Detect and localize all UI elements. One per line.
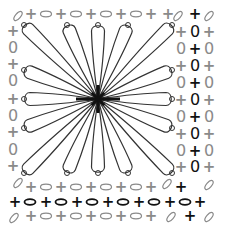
chain-stitch-icon: [180, 199, 191, 205]
single-crochet-icon: +: [203, 160, 216, 175]
single-crochet-icon: +: [175, 180, 188, 195]
single-crochet-icon: +: [189, 7, 202, 22]
single-crochet-icon: +: [164, 195, 177, 210]
slant-chain-stitch-icon: [12, 177, 23, 189]
slant-chain-stitch-icon: [12, 10, 23, 22]
chain-stitch-icon: [41, 184, 52, 190]
single-crochet-icon: +: [175, 25, 188, 40]
single-crochet-icon: +: [85, 209, 98, 224]
petal-loop: [98, 99, 174, 175]
petal-tip-circle-icon: [96, 171, 101, 176]
chain-stitch-icon: [131, 11, 142, 17]
double-crochet-icon: 0: [190, 58, 200, 74]
slant-chain-stitch-icon: [203, 10, 214, 22]
single-crochet-icon: +: [7, 57, 20, 72]
double-crochet-icon: 0: [190, 92, 200, 108]
chain-stitch-icon: [101, 184, 112, 190]
petal-loop: [98, 99, 132, 173]
double-crochet-icon: 0: [176, 109, 186, 125]
single-crochet-icon: +: [203, 59, 216, 74]
chain-stitch-icon: [41, 11, 52, 17]
single-crochet-icon: +: [175, 127, 188, 142]
single-crochet-icon: +: [102, 195, 115, 210]
chain-stitch-icon: [25, 199, 36, 205]
single-crochet-icon: +: [184, 209, 197, 224]
chain-stitch-icon: [71, 213, 82, 219]
single-crochet-icon: +: [25, 7, 38, 22]
single-crochet-icon: +: [7, 159, 20, 174]
single-crochet-icon: +: [55, 7, 68, 22]
single-crochet-icon: +: [145, 7, 158, 22]
single-crochet-icon: +: [85, 7, 98, 22]
single-crochet-icon: +: [189, 42, 202, 57]
chain-stitch-icon: [101, 213, 112, 219]
single-crochet-icon: +: [145, 209, 158, 224]
single-crochet-icon: +: [115, 180, 128, 195]
single-crochet-icon: +: [175, 59, 188, 74]
double-crochet-icon: 0: [190, 24, 200, 40]
double-crochet-icon: 0: [204, 75, 214, 91]
chain-stitch-icon: [87, 199, 98, 205]
double-crochet-icon: 0: [8, 73, 18, 89]
chain-stitch-icon: [41, 213, 52, 219]
single-crochet-icon: +: [145, 180, 158, 195]
single-crochet-icon: +: [40, 195, 53, 210]
single-crochet-icon: +: [175, 93, 188, 108]
slant-chain-stitch-icon: [8, 212, 19, 224]
chain-stitch-icon: [118, 199, 129, 205]
slant-chain-stitch-icon: [203, 211, 214, 223]
chain-stitch-icon: [149, 199, 160, 205]
single-crochet-icon: +: [7, 24, 20, 39]
single-crochet-icon: +: [115, 209, 128, 224]
petal-tip-circle-icon: [96, 23, 101, 28]
single-crochet-icon: +: [203, 25, 216, 40]
double-crochet-icon: 0: [176, 41, 186, 57]
petal-loop: [98, 23, 174, 99]
single-crochet-icon: +: [9, 195, 22, 210]
slant-chain-stitch-icon: [165, 211, 176, 223]
petal-loop: [98, 25, 132, 99]
slant-chain-stitch-icon: [203, 179, 214, 191]
petal-loop: [63, 99, 98, 173]
slant-chain-stitch-icon: [161, 178, 172, 190]
single-crochet-icon: +: [203, 127, 216, 142]
crochet-chart: ++++++++0+0+0+0++0+0+0+0+0+0+0+0+0+0+0+0…: [0, 0, 225, 227]
single-crochet-icon: +: [7, 125, 20, 140]
double-crochet-icon: 0: [190, 126, 200, 142]
single-crochet-icon: +: [55, 209, 68, 224]
single-crochet-icon: +: [189, 76, 202, 91]
double-crochet-icon: 0: [176, 75, 186, 91]
single-crochet-icon: +: [115, 7, 128, 22]
chain-stitch-icon: [56, 199, 67, 205]
single-crochet-icon: +: [85, 180, 98, 195]
chain-stitch-icon: [131, 213, 142, 219]
chain-stitch-icon: [131, 184, 142, 190]
single-crochet-icon: +: [133, 195, 146, 210]
chain-stitch-icon: [71, 11, 82, 17]
single-crochet-icon: +: [189, 110, 202, 125]
single-crochet-icon: +: [203, 93, 216, 108]
double-crochet-icon: 0: [190, 159, 200, 175]
single-crochet-icon: +: [25, 209, 38, 224]
chain-stitch-icon: [71, 184, 82, 190]
petal-tip-circle-icon: [22, 97, 27, 102]
single-crochet-icon: +: [25, 180, 38, 195]
single-crochet-icon: +: [7, 92, 20, 107]
single-crochet-icon: +: [55, 180, 68, 195]
single-crochet-icon: +: [162, 7, 175, 22]
single-crochet-icon: +: [175, 160, 188, 175]
double-crochet-icon: 0: [204, 109, 214, 125]
double-crochet-icon: 0: [204, 41, 214, 57]
chain-stitch-icon: [101, 11, 112, 17]
single-crochet-icon: +: [71, 195, 84, 210]
petal-loop: [63, 25, 98, 99]
